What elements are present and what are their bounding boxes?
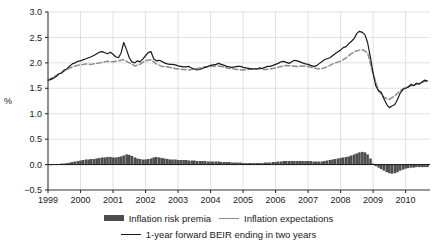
svg-text:0.5: 0.5 [29, 134, 42, 144]
black-line-swatch-icon [121, 234, 141, 235]
svg-text:2003: 2003 [168, 195, 188, 205]
legend-label-risk-premia: Inflation risk premia [129, 213, 211, 224]
svg-text:3.0: 3.0 [29, 7, 42, 17]
gray-line-swatch-icon [219, 218, 239, 219]
svg-text:2001: 2001 [103, 195, 123, 205]
svg-text:2008: 2008 [331, 195, 351, 205]
svg-text:0.0: 0.0 [29, 160, 42, 170]
legend-label-expectations: Inflation expectations [244, 213, 333, 224]
legend-item-expectations[interactable]: Inflation expectations [219, 213, 333, 224]
legend-row-1: Inflation risk premia Inflation expectat… [0, 210, 437, 226]
chart-legend: Inflation risk premia Inflation expectat… [0, 210, 437, 242]
svg-text:1999: 1999 [38, 195, 58, 205]
legend-label-beir: 1-year forward BEIR ending in two years [146, 229, 317, 240]
legend-item-beir[interactable]: 1-year forward BEIR ending in two years [121, 229, 317, 240]
chart-container: % −0.50.00.51.01.52.02.53.01999200020012… [0, 0, 437, 247]
svg-text:2005: 2005 [233, 195, 253, 205]
svg-text:2.0: 2.0 [29, 58, 42, 68]
svg-text:2000: 2000 [70, 195, 90, 205]
svg-text:1.0: 1.0 [29, 109, 42, 119]
svg-text:2009: 2009 [363, 195, 383, 205]
svg-text:1.5: 1.5 [29, 83, 42, 93]
svg-text:2.5: 2.5 [29, 33, 42, 43]
svg-text:2007: 2007 [298, 195, 318, 205]
svg-text:−0.5: −0.5 [24, 185, 42, 195]
svg-text:2006: 2006 [266, 195, 286, 205]
bar-swatch-icon [104, 215, 124, 221]
svg-text:2004: 2004 [201, 195, 221, 205]
legend-item-risk-premia[interactable]: Inflation risk premia [104, 213, 211, 224]
svg-text:2010: 2010 [396, 195, 416, 205]
legend-row-2: 1-year forward BEIR ending in two years [0, 226, 437, 242]
svg-text:2002: 2002 [136, 195, 156, 205]
